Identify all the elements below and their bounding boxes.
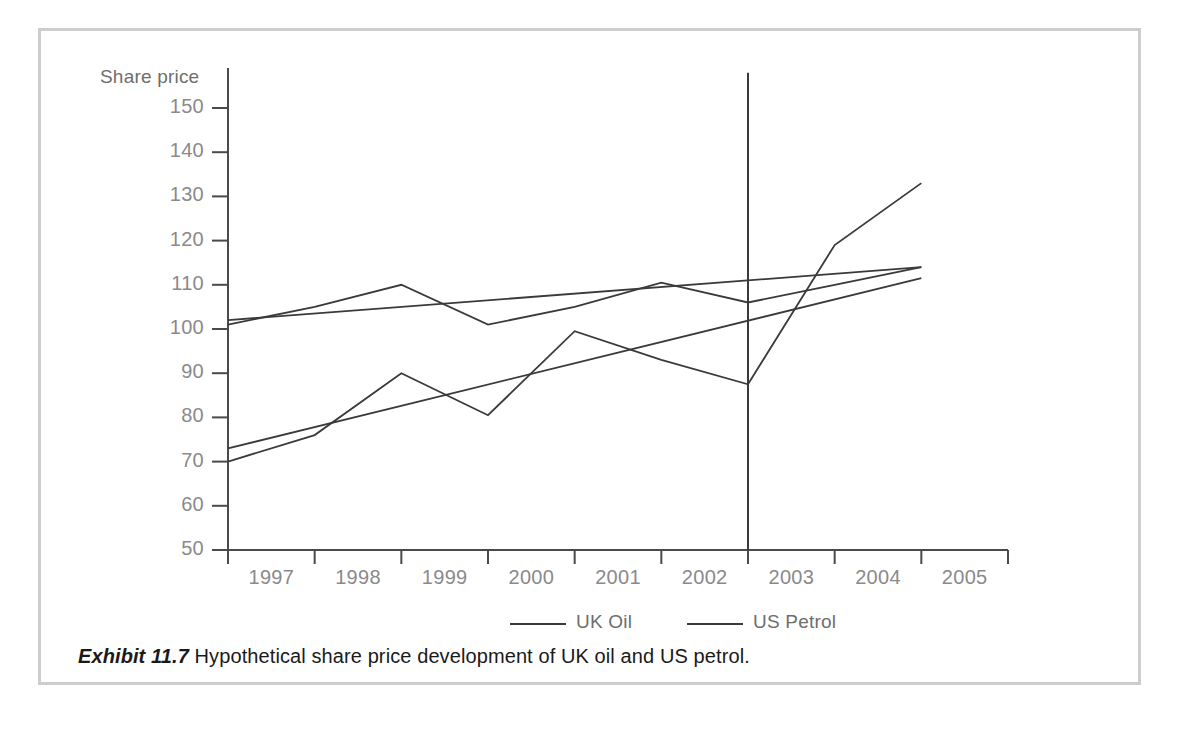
caption-exhibit-number: Exhibit 11.7 (78, 645, 189, 667)
x-tick-label: 2000 (489, 566, 573, 589)
x-tick-label: 2001 (576, 566, 660, 589)
x-tick-label: 1997 (229, 566, 313, 589)
y-tick-label: 60 (144, 493, 204, 516)
legend-label-uk-oil: UK Oil (576, 611, 632, 633)
exhibit-figure: Share price 5060708090100110120130140150… (0, 0, 1187, 740)
y-tick-label: 110 (144, 272, 204, 295)
y-tick-label: 50 (144, 537, 204, 560)
y-tick-label: 80 (144, 404, 204, 427)
exhibit-caption: Exhibit 11.7 Hypothetical share price de… (78, 645, 750, 668)
y-tick-label: 140 (144, 139, 204, 162)
y-tick-label: 150 (144, 95, 204, 118)
x-tick-label: 2005 (923, 566, 1007, 589)
y-tick-label: 90 (144, 360, 204, 383)
y-tick-label: 100 (144, 316, 204, 339)
y-tick-label: 130 (144, 183, 204, 206)
y-axis-title: Share price (100, 66, 199, 88)
y-tick-label: 70 (144, 449, 204, 472)
x-tick-label: 2002 (663, 566, 747, 589)
x-tick-label: 2003 (749, 566, 833, 589)
x-tick-label: 1999 (403, 566, 487, 589)
caption-text: Hypothetical share price development of … (195, 645, 750, 667)
legend-label-us-petrol: US Petrol (753, 611, 836, 633)
x-tick-label: 1998 (316, 566, 400, 589)
x-tick-label: 2004 (836, 566, 920, 589)
y-tick-label: 120 (144, 228, 204, 251)
